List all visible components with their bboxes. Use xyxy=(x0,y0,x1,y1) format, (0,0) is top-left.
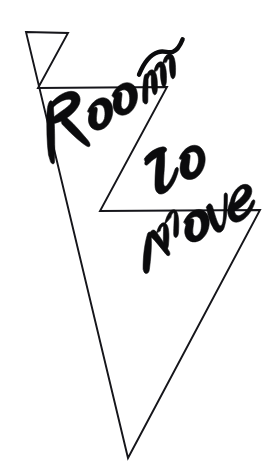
artwork-canvas: Room To Move xyxy=(0,0,278,475)
word-move xyxy=(128,183,266,274)
word-move-svg xyxy=(0,0,278,475)
